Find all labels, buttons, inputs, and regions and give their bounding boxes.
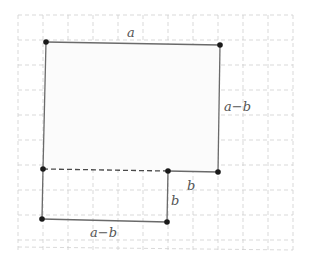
vertex-dot — [165, 168, 171, 174]
label-inner-bottom-b: b — [187, 178, 195, 193]
vertex-dot — [217, 42, 223, 48]
label-inner-side-b: b — [171, 193, 179, 208]
vertex-dot — [43, 39, 49, 45]
diagram-canvas: a a−b b b a−b — [0, 0, 311, 263]
vertex-dot — [40, 166, 46, 172]
shaded-regions — [43, 42, 220, 172]
vertex-dot — [164, 219, 170, 225]
label-bottom-a-minus-b: a−b — [90, 225, 117, 240]
label-right-a-minus-b: a−b — [224, 99, 251, 114]
upper-rectangle-fill — [43, 42, 220, 172]
grid-line-horizontal — [18, 247, 293, 250]
edge-P6-P7 — [42, 219, 167, 222]
label-top-a: a — [127, 25, 135, 40]
vertex-dot — [215, 169, 221, 175]
geometry-figure: a a−b b b a−b — [0, 0, 311, 263]
vertex-dot — [39, 216, 45, 222]
